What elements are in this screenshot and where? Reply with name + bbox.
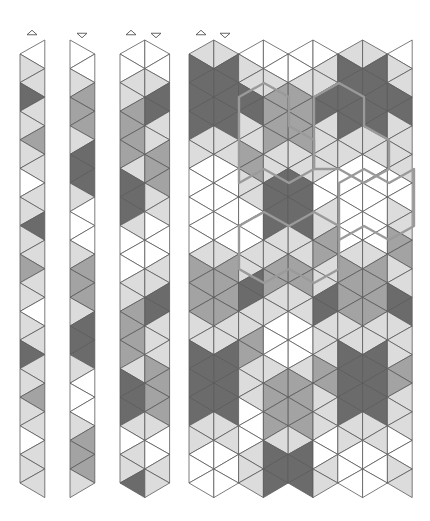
strip-2 [70, 40, 95, 498]
triangle-down-icon [77, 33, 87, 38]
triangle-down-icon [220, 33, 230, 38]
triangle-down-icon [151, 33, 161, 38]
strip-3 [120, 40, 170, 498]
tiling-strips [20, 40, 412, 498]
panel [189, 40, 412, 498]
quilt-diagram [0, 0, 430, 521]
orientation-markers [27, 30, 230, 38]
strip-1 [20, 40, 45, 498]
triangle-up-icon [27, 30, 37, 35]
triangle-up-icon [126, 30, 136, 35]
triangle-up-icon [196, 30, 206, 35]
